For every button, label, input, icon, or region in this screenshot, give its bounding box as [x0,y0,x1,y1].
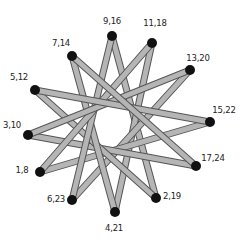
node-label: 11,18 [143,18,166,28]
joint-node [185,65,195,75]
node-label: 1,8 [16,165,29,175]
joint-node [107,31,117,41]
joint-node [151,193,161,203]
joint-node [67,51,77,61]
joint-node [30,85,40,95]
node-label: 2,19 [163,191,181,201]
node-label: 4,21 [105,223,123,233]
joint-node [110,207,120,217]
joint-node [35,167,45,177]
node-label: 17,24 [201,153,224,163]
node-label: 7,14 [52,38,70,48]
star-linkage-diagram [0,0,242,244]
joint-node [147,38,157,48]
node-label: 9,16 [103,16,121,26]
node-label: 13,20 [186,53,209,63]
node-label: 3,10 [3,120,21,130]
bars [28,36,210,212]
node-label: 5,12 [10,72,28,82]
node-label: 15,22 [212,105,235,115]
node-label: 6,23 [47,194,65,204]
joint-node [191,161,201,171]
joint-node [67,195,77,205]
joint-node [205,117,215,127]
joint-node [23,130,33,140]
